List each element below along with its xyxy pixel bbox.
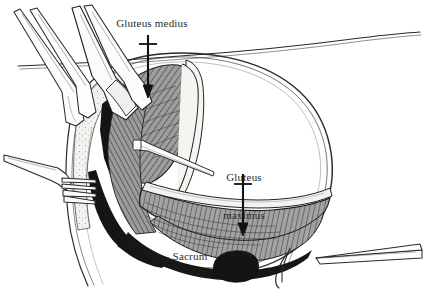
- label-gluteus-maximus-line1: Gluteus: [208, 171, 280, 184]
- label-gluteus-maximus-line2: maximus: [208, 209, 280, 222]
- anatomical-illustration-figure: Gluteus medius Gluteus maximus Sacrum: [0, 0, 424, 294]
- label-sacrum: Sacrum: [160, 250, 220, 263]
- sacrum-bone: [213, 251, 258, 282]
- label-gluteus-maximus: Gluteus maximus: [208, 146, 280, 246]
- label-gluteus-medius: Gluteus medius: [106, 17, 198, 30]
- elevator-tip: [133, 140, 141, 150]
